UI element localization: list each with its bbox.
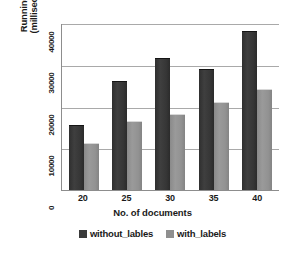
x-axis-title: No. of documents [0,207,305,218]
bar-group-30 [155,24,185,190]
y-tick-label-40000: 40000 [47,25,57,59]
bar-with_labels-35 [214,102,229,190]
y-tick-label-20000: 20000 [47,108,57,142]
bar-with_labels-20 [84,143,99,190]
bar-without_lables-30 [155,58,170,190]
y-tick-label-10000: 10000 [47,149,57,183]
x-tick-label-20: 20 [66,193,100,203]
bar-without_lables-25 [112,81,127,190]
y-axis-title-line2: (milliseconds) [29,0,39,34]
bar-without_lables-35 [199,69,214,190]
chart-legend: without_lables with_labels [0,228,305,239]
bar-group-20 [69,24,99,190]
legend-label-with_labels: with_labels [177,228,226,239]
bar-with_labels-30 [170,114,185,190]
legend-item-with_labels: with_labels [166,228,226,239]
bar-with_labels-25 [127,121,142,190]
x-tick-label-30: 30 [153,193,187,203]
x-tick-label-25: 25 [109,193,143,203]
bar-groups [62,24,279,190]
bar-without_lables-40 [242,31,257,190]
plot-area [61,24,279,191]
bar-without_lables-20 [69,125,84,190]
legend-swatch-icon-with_labels [166,230,174,238]
bar-chart-figure: Running time (milliseconds) 0 10000 2000… [0,0,305,255]
legend-label-without_lables: without_lables [90,228,153,239]
x-axis-tick-labels: 20 25 30 35 40 [61,193,279,207]
y-axis-title: Running time (milliseconds) [14,0,44,68]
bar-with_labels-40 [257,89,272,190]
legend-item-without_lables: without_lables [79,228,153,239]
bar-group-35 [199,24,229,190]
bar-group-40 [242,24,272,190]
x-tick-label-40: 40 [240,193,274,203]
y-tick-label-30000: 30000 [47,66,57,100]
bar-group-25 [112,24,142,190]
legend-swatch-icon-without_lables [79,230,87,238]
x-tick-label-35: 35 [197,193,231,203]
